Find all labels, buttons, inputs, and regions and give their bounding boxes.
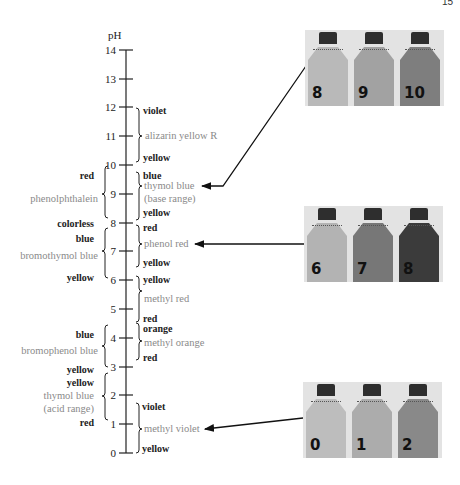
phenol-red-name: phenol red: [144, 239, 189, 250]
methyl-violet-top-color: violet: [142, 402, 165, 412]
bottle: 6: [307, 206, 347, 282]
bottle: 0: [306, 382, 346, 458]
bottle: 9: [354, 30, 394, 106]
bromothymol-name: bromothymol blue: [20, 250, 98, 261]
tick-label-2: 2: [96, 390, 116, 401]
bromophenol-top-color: blue: [76, 329, 94, 340]
bottle: 7: [353, 206, 393, 282]
methyl-red-yellow-label: yellow: [143, 275, 170, 285]
bottle-ph-label: 0: [310, 436, 320, 454]
methyl-orange-bottom-color: red: [143, 353, 157, 363]
phenol-red-bottom-color: yellow: [143, 258, 170, 268]
photo-arrows: [195, 66, 306, 429]
thymol-acid-bottom-color-wrap: red: [80, 413, 94, 429]
phenolphthalein-top-color: red: [80, 170, 94, 181]
tick-label-3: 3: [96, 362, 116, 373]
tick-label-5: 5: [96, 304, 116, 315]
bottle: 1: [352, 382, 392, 458]
methyl-orange-top-color: orange: [143, 324, 172, 334]
bromophenol-name-wrap: bromophenol blue: [21, 341, 98, 357]
axis-title: pH: [108, 30, 121, 41]
ph-indicator-figure: 15: [0, 0, 460, 485]
phenolphthalein-name-wrap: phenolphthalein: [30, 189, 98, 205]
tick-label-14: 14: [96, 45, 116, 56]
bromothymol-name-wrap: bromothymol blue: [20, 246, 98, 262]
bottle-ph-label: 1: [356, 436, 366, 454]
bottle: 8: [308, 30, 348, 106]
arrow-methyl-violet: [205, 418, 303, 429]
tick-label-7: 7: [96, 246, 116, 257]
alizarin-name: alizarin yellow R: [145, 131, 217, 142]
bottle-ph-label: 2: [402, 436, 412, 454]
bottle-ph-label: 10: [404, 84, 425, 102]
tick-label-8: 8: [96, 218, 116, 229]
phenolphthalein-bottom-color-wrap: colorless: [57, 214, 94, 230]
bromothymol-top-color-wrap: blue: [76, 229, 94, 245]
tick-label-6: 6: [96, 275, 116, 286]
bottle: 2: [398, 382, 438, 458]
methyl-orange-name: methyl orange: [144, 338, 204, 349]
tick-label-10: 10: [96, 160, 116, 171]
bromothymol-bottom-color: yellow: [67, 272, 94, 283]
bottle: 10: [400, 30, 440, 106]
tick-label-1: 1: [96, 419, 116, 430]
bottle-ph-label: 7: [357, 260, 367, 278]
methyl-violet-bottom-color: yellow: [142, 444, 169, 454]
bottle-ph-label: 9: [358, 84, 368, 102]
photo-thymol-blue-bottles: 8 9 10: [305, 30, 444, 106]
methyl-red-name: methyl red: [144, 294, 189, 305]
phenolphthalein-bottom-color: colorless: [57, 218, 94, 229]
bottle: 8: [399, 206, 439, 282]
bottle-ph-label: 8: [312, 84, 322, 102]
bromothymol-top-color: blue: [76, 233, 94, 244]
tick-label-9: 9: [96, 189, 116, 200]
tick-label-0: 0: [96, 448, 116, 459]
phenol-red-top-color: red: [143, 223, 157, 233]
photo-phenol-red-bottles: 6 7 8: [304, 206, 443, 282]
bromophenol-top-color-wrap: blue: [76, 325, 94, 341]
tick-label-4: 4: [96, 333, 116, 344]
bottle-ph-label: 8: [403, 260, 413, 278]
thymol-base-range: (base range): [144, 194, 196, 205]
thymol-base-bottom-color: yellow: [143, 208, 170, 218]
thymol-base-name: thymol blue: [144, 181, 194, 192]
arrow-thymol-blue: [202, 66, 306, 186]
bromophenol-name: bromophenol blue: [21, 345, 98, 356]
methyl-violet-name: methyl violet: [144, 424, 200, 435]
bottle-ph-label: 6: [311, 260, 321, 278]
tick-label-11: 11: [96, 131, 116, 142]
photo-methyl-violet-bottles: 0 1 2: [303, 382, 442, 458]
alizarin-bottom-color: yellow: [143, 153, 170, 163]
bromothymol-bottom-color-wrap: yellow: [67, 268, 94, 284]
phenolphthalein-name: phenolphthalein: [30, 193, 98, 204]
tick-label-13: 13: [96, 74, 116, 85]
left-brackets: [102, 166, 108, 420]
tick-label-12: 12: [96, 102, 116, 113]
phenolphthalein-top-color-wrap: red: [80, 166, 94, 182]
thymol-acid-bottom-color: red: [80, 417, 94, 428]
alizarin-top-color: violet: [143, 106, 166, 116]
